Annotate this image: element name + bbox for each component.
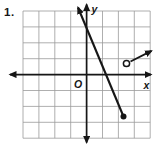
figure-svg: y x O [0, 0, 159, 147]
x-axis-label: x [143, 79, 151, 91]
closed-endpoint-dot [121, 114, 127, 120]
axes [10, 5, 151, 143]
origin-label: O [74, 78, 82, 90]
y-axis-label: y [91, 3, 99, 15]
open-endpoint-circle [123, 60, 129, 66]
open-ray-line [131, 51, 152, 62]
steep-line-segment [78, 8, 124, 117]
coordinate-plane-figure: 1. y x O [0, 0, 159, 147]
function-graph [78, 8, 152, 120]
